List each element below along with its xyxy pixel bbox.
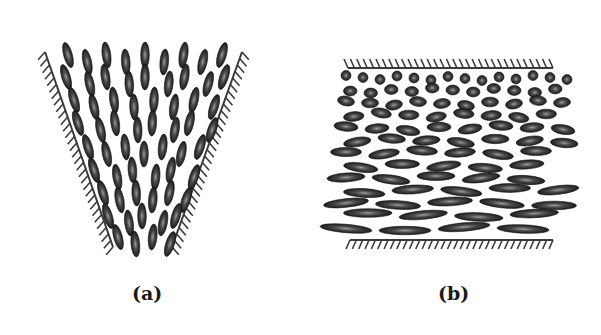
molecule — [489, 120, 514, 131]
molecule — [482, 148, 514, 162]
molecule — [343, 111, 364, 122]
molecule — [196, 48, 210, 75]
molecule — [477, 76, 487, 86]
molecule — [392, 184, 434, 195]
molecule — [427, 122, 451, 131]
molecule — [479, 197, 525, 210]
molecule — [529, 95, 547, 106]
molecule — [443, 72, 453, 82]
molecule — [169, 116, 182, 143]
molecule — [457, 122, 482, 135]
molecule — [133, 117, 142, 143]
molecule — [508, 111, 530, 124]
molecule — [372, 173, 411, 187]
molecule — [433, 98, 451, 109]
molecule — [444, 147, 476, 158]
molecule — [187, 86, 201, 113]
molecule — [362, 98, 379, 108]
molecule — [425, 110, 447, 123]
molecule — [406, 145, 438, 156]
molecule — [100, 140, 114, 167]
molecule — [515, 134, 544, 148]
molecule — [99, 64, 111, 91]
panel-b-molecules — [320, 71, 580, 235]
molecule — [149, 87, 159, 113]
molecule — [341, 71, 351, 81]
panel-label-a: (a) — [132, 284, 162, 303]
molecule — [343, 161, 378, 175]
molecule — [511, 74, 521, 84]
molecule — [365, 123, 390, 134]
molecule — [157, 134, 168, 161]
molecule — [364, 88, 378, 98]
molecule — [482, 134, 510, 143]
molecule — [138, 203, 147, 229]
molecule — [426, 83, 440, 93]
molecule — [446, 136, 475, 150]
molecule — [489, 184, 531, 193]
molecule — [124, 71, 134, 97]
molecule — [481, 110, 502, 121]
molecule — [178, 63, 191, 90]
molecule — [177, 42, 189, 69]
molecule — [83, 70, 97, 97]
molecule — [392, 71, 402, 81]
molecule — [368, 147, 400, 161]
molecule — [482, 97, 499, 107]
panel-a-splay-funnel — [38, 41, 249, 257]
molecule — [120, 134, 131, 161]
molecule — [168, 94, 180, 121]
molecule — [174, 140, 188, 167]
molecule — [109, 110, 121, 137]
molecule — [162, 230, 178, 257]
left-inclined-wall — [38, 52, 113, 255]
molecule — [320, 222, 373, 235]
molecule — [147, 110, 157, 136]
molecule — [337, 95, 356, 108]
molecule — [399, 110, 420, 120]
molecule — [460, 74, 470, 84]
molecule — [454, 212, 503, 223]
molecule — [150, 164, 161, 191]
molecule — [505, 98, 524, 111]
molecule — [127, 157, 137, 184]
molecule — [164, 156, 177, 183]
molecule — [549, 84, 563, 94]
molecule — [343, 187, 385, 198]
molecule — [327, 172, 365, 183]
molecule — [528, 71, 538, 81]
molecule — [536, 109, 557, 119]
molecule — [66, 86, 82, 113]
molecule — [497, 224, 549, 235]
molecule — [417, 172, 455, 181]
molecule — [462, 171, 501, 185]
molecule — [520, 122, 545, 133]
molecule — [405, 87, 419, 97]
molecule — [467, 87, 481, 97]
molecule — [343, 135, 372, 149]
molecule — [399, 208, 448, 221]
molecule — [131, 180, 141, 206]
molecule — [438, 221, 491, 234]
molecule — [331, 147, 362, 156]
molecule — [379, 226, 431, 234]
molecule — [148, 187, 159, 214]
molecule — [468, 162, 503, 173]
molecule — [87, 93, 101, 120]
molecule — [553, 97, 571, 108]
molecule — [508, 86, 522, 96]
molecule — [204, 116, 221, 143]
molecule — [358, 73, 368, 83]
molecule — [141, 64, 150, 90]
panel-b-parallel-walls — [320, 59, 580, 249]
molecule — [509, 159, 544, 170]
molecule — [427, 196, 472, 207]
top-horizontal-wall — [344, 59, 553, 68]
molecule — [562, 75, 572, 85]
molecule — [550, 137, 578, 148]
molecule — [510, 208, 559, 219]
molecule — [385, 85, 399, 95]
molecule — [140, 141, 149, 167]
molecule — [385, 159, 420, 168]
molecule — [446, 85, 460, 95]
